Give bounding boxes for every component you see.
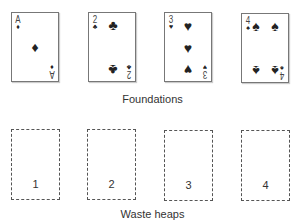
card-rank: 2: [92, 15, 98, 24]
spade-icon: ♠: [249, 19, 263, 33]
card-rank: 3: [168, 15, 174, 24]
heart-icon: ♥: [181, 63, 195, 77]
card-index-bottom: 3 ♥: [201, 64, 209, 79]
card-rank: A: [15, 15, 21, 24]
card-index-bottom: 4 ♠: [278, 65, 286, 80]
heart-icon: ♥: [181, 19, 195, 33]
waste-heaps-label: Waste heaps: [0, 208, 305, 220]
card-index-top: 3 ♥: [167, 15, 175, 30]
card-index-bottom: 2 ♣: [125, 64, 133, 79]
waste-heap-number: 4: [242, 179, 289, 191]
waste-heap-4[interactable]: 4: [241, 130, 290, 201]
foundation-card-two-clubs[interactable]: 2 ♣ ♣ ♣ 2 ♣: [88, 12, 136, 82]
waste-heap-3[interactable]: 3: [164, 130, 213, 201]
card-rank: 3: [202, 70, 208, 79]
spade-icon: ♠: [249, 64, 263, 78]
diamond-icon: ♦: [28, 40, 42, 54]
waste-heap-number: 3: [165, 179, 212, 191]
card-rank: 2: [126, 70, 132, 79]
waste-heap-number: 2: [88, 178, 135, 190]
foundations-label: Foundations: [0, 93, 305, 105]
card-index-bottom: A ♦: [48, 64, 56, 79]
waste-heap-number: 1: [12, 178, 59, 190]
card-index-top: A ♦: [14, 15, 22, 30]
waste-heap-1[interactable]: 1: [11, 129, 60, 200]
waste-heap-2[interactable]: 2: [87, 129, 136, 200]
foundation-card-ace-diamonds[interactable]: A ♦ ♦ A ♦: [11, 12, 59, 82]
foundation-card-three-hearts[interactable]: 3 ♥ ♥ ♥ ♥ 3 ♥: [164, 12, 212, 82]
card-rank: 4: [279, 71, 285, 80]
club-icon: ♣: [106, 63, 120, 77]
heart-icon: ♥: [181, 41, 195, 55]
card-index-top: 2 ♣: [91, 15, 99, 30]
card-rank: A: [49, 70, 55, 79]
spade-icon: ♠: [268, 19, 282, 33]
club-icon: ♣: [106, 18, 120, 32]
foundation-card-four-spades[interactable]: 4 ♠ ♠ ♠ ♠ ♠ 4 ♠: [241, 13, 289, 83]
